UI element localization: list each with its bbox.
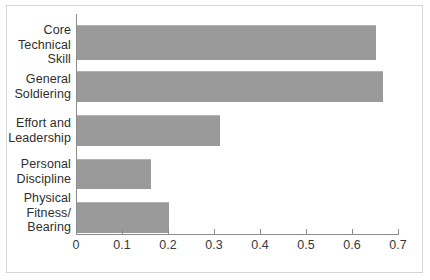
- category-label-personal-discipline: Personal Discipline: [1, 157, 71, 186]
- tick-label: 0.2: [148, 238, 188, 252]
- category-label-line: Leadership: [1, 131, 71, 146]
- value-axis-line: [76, 234, 399, 235]
- category-label-line: Fitness/: [1, 206, 71, 221]
- category-label-line: Personal: [1, 157, 71, 172]
- category-label-core-technical-skill: Core Technical Skill: [1, 23, 71, 67]
- tick-mark: [122, 229, 123, 234]
- tick-mark: [214, 229, 215, 234]
- tick-mark: [352, 229, 353, 234]
- tick-mark: [306, 229, 307, 234]
- tick-label: 0.1: [102, 238, 142, 252]
- tick-label: 0.5: [286, 238, 326, 252]
- bar-personal-discipline: [77, 159, 151, 189]
- category-label-line: Effort and: [1, 116, 71, 131]
- category-label-line: Technical: [1, 38, 71, 53]
- category-label-line: Skill: [1, 52, 71, 67]
- tick-mark: [260, 229, 261, 234]
- category-label-line: Bearing: [1, 220, 71, 235]
- plot-area: [76, 14, 398, 234]
- category-label-line: Physical: [1, 191, 71, 206]
- category-label-line: Core: [1, 23, 71, 38]
- tick-label: 0.3: [194, 238, 234, 252]
- tick-mark: [398, 229, 399, 234]
- tick-mark: [76, 229, 77, 234]
- bar-chart-figure: Core Technical Skill General Soldiering …: [0, 0, 430, 280]
- bar-effort-and-leadership: [77, 115, 220, 146]
- category-label-line: General: [1, 72, 71, 87]
- tick-label: 0.4: [240, 238, 280, 252]
- tick-label: 0.6: [332, 238, 372, 252]
- bar-physical-fitness-bearing: [77, 202, 169, 233]
- tick-label: 0: [56, 238, 96, 252]
- bar-core-technical-skill: [77, 25, 376, 60]
- category-label-general-soldiering: General Soldiering: [1, 72, 71, 101]
- category-label-line: Soldiering: [1, 87, 71, 102]
- category-label-effort-and-leadership: Effort and Leadership: [1, 116, 71, 145]
- category-label-physical-fitness-bearing: Physical Fitness/ Bearing: [1, 191, 71, 235]
- bar-general-soldiering: [77, 71, 383, 102]
- tick-label: 0.7: [378, 238, 418, 252]
- category-label-line: Discipline: [1, 172, 71, 187]
- tick-mark: [168, 229, 169, 234]
